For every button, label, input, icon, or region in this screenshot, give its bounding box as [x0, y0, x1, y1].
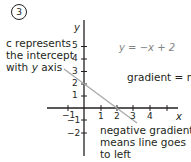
- y-tick-1: 1: [72, 90, 78, 100]
- y-tick-2: 2: [72, 78, 78, 88]
- gradient-annotation: gradient = m: [127, 71, 191, 83]
- x-tick-2: 2: [114, 111, 120, 121]
- x-axis-label: x: [176, 111, 182, 122]
- equation-label: y = −x + 2: [119, 42, 175, 53]
- x-tick-neg1: −1: [62, 110, 75, 120]
- negative-gradient-annotation: negative gradient means line goes to lef…: [100, 124, 191, 160]
- x-tick-1: 1: [98, 111, 104, 121]
- intercept-annotation: c represents the intercept with y axis: [6, 37, 74, 73]
- y-axis-label: y: [74, 22, 80, 33]
- x-tick-4: 4: [147, 111, 153, 121]
- x-tick-3: 3: [130, 111, 136, 121]
- y-tick-neg2: −2: [67, 128, 80, 138]
